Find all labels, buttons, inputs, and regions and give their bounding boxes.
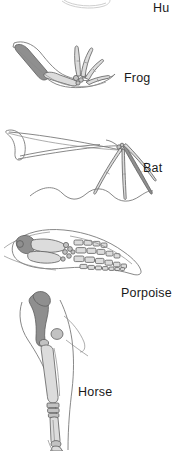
porpoise-carpal-6 xyxy=(71,250,75,254)
porpoise-d2-p4 xyxy=(106,251,113,256)
bat-carpal-2 xyxy=(120,143,124,147)
label-frog: Frog xyxy=(124,72,151,85)
porpoise-d4-p6 xyxy=(115,267,120,270)
bat-thumb xyxy=(106,140,118,146)
horse-carpal-row-1 xyxy=(47,403,59,408)
horse-carpal-row-2 xyxy=(48,408,60,412)
porpoise-d3-p3 xyxy=(96,258,105,263)
porpoise-d3-p1 xyxy=(74,256,84,262)
porpoise-d4-p2 xyxy=(88,265,95,269)
porpoise-d4-p1 xyxy=(80,264,87,268)
homologous-limbs-diagram: .bd{fill:#8f8f8f;stroke:#5e5e5e;stroke-w… xyxy=(0,0,174,451)
bat-wing-membrane xyxy=(30,188,153,201)
horse-radius xyxy=(41,345,58,403)
porpoise-d4-p7 xyxy=(121,268,125,271)
label-horse: Horse xyxy=(78,386,112,399)
porpoise-d1-p1 xyxy=(74,240,83,245)
label-porpoise: Porpoise xyxy=(121,287,172,300)
porpoise-d3-p4 xyxy=(105,260,113,265)
porpoise-d2-p2 xyxy=(87,248,96,253)
panel-horse xyxy=(20,292,88,451)
porpoise-carpal-4 xyxy=(67,254,72,259)
porpoise-carpal-3 xyxy=(63,250,68,255)
panel-frog xyxy=(13,42,115,88)
bat-digit-2 xyxy=(94,148,122,194)
panel-human xyxy=(62,0,110,8)
panel-porpoise xyxy=(4,230,141,275)
porpoise-d4-p3 xyxy=(96,266,102,270)
panel-bat xyxy=(6,130,156,201)
porpoise-d3-p2 xyxy=(85,257,95,262)
porpoise-carpal-1 xyxy=(63,242,68,247)
porpoise-d2-p1 xyxy=(76,248,86,253)
horse-elbow-joint xyxy=(51,329,63,340)
porpoise-d2-p3 xyxy=(97,249,105,254)
label-bat: Bat xyxy=(143,162,162,175)
bat-forearm-mid xyxy=(20,145,100,156)
porpoise-d4-p5 xyxy=(109,267,114,270)
label-human: Hu xyxy=(153,2,169,15)
porpoise-d4-p4 xyxy=(103,267,109,271)
porpoise-d3-p5 xyxy=(114,262,121,267)
porpoise-humerus-head xyxy=(17,241,24,248)
porpoise-carpal-5 xyxy=(61,257,65,261)
frog-carpal-3 xyxy=(76,81,80,85)
